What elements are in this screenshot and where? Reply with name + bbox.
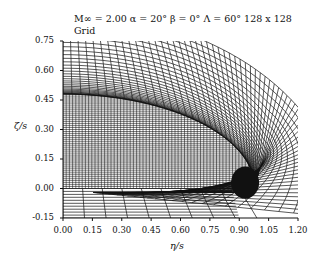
grid-plot xyxy=(0,0,321,267)
